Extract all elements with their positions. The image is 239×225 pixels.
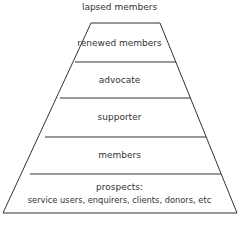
level-renewed-members: renewed members <box>0 38 239 49</box>
level-supporter: supporter <box>0 112 239 123</box>
level-members: members <box>0 150 239 161</box>
level-prospects: prospects: <box>0 182 239 193</box>
level-advocate: advocate <box>0 75 239 86</box>
top-label: lapsed members <box>0 2 239 13</box>
level-prospects-sublabel: service users, enquirers, clients, donor… <box>0 195 239 206</box>
